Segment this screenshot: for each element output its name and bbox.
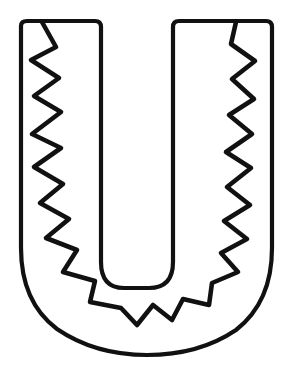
letter-u-drawing: Letter U [0,0,298,380]
drawing-canvas: Letter U Black outline drawing of a capi… [0,0,298,380]
